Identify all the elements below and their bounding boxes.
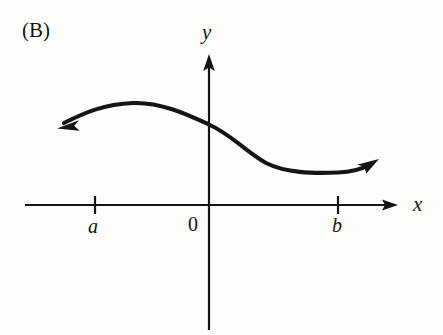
origin-label: 0 xyxy=(188,214,198,234)
tick-label-b: b xyxy=(332,215,342,235)
y-axis-label: y xyxy=(202,22,211,43)
figure-panel: (B) y x a 0 b xyxy=(0,0,443,335)
x-axis-label: x xyxy=(413,194,422,215)
tick-label-a: a xyxy=(88,216,98,236)
curve-right-arrowhead xyxy=(357,159,379,173)
curve-path xyxy=(64,103,370,173)
coordinate-plane-figure xyxy=(0,0,443,335)
panel-label: (B) xyxy=(22,20,50,41)
